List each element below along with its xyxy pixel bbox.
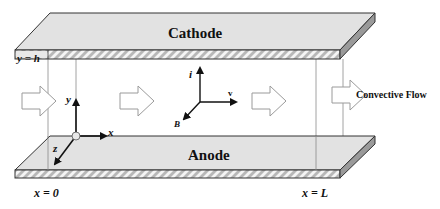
anode-plate: Anode xyxy=(15,136,375,178)
x-axis-label: x xyxy=(107,126,114,138)
magnetic-field-label: B xyxy=(173,119,180,129)
current-label: i xyxy=(189,68,193,80)
z-axis-label: z xyxy=(52,142,58,154)
flow-arrows xyxy=(22,80,366,116)
flow-arrow-icon xyxy=(252,86,286,116)
flow-arrow-icon xyxy=(22,86,56,116)
flow-arrow-icon xyxy=(120,86,154,116)
anode-label: Anode xyxy=(188,147,230,163)
convective-flow-label: Convective Flow xyxy=(356,89,428,100)
cathode-label: Cathode xyxy=(168,25,223,41)
inlet-boundary-label: x = 0 xyxy=(33,186,59,200)
outlet-boundary-label: x = L xyxy=(301,186,328,200)
cathode-hatched-edge xyxy=(15,50,340,59)
velocity-label: v xyxy=(228,88,233,98)
electrochemical-channel-diagram: Anode Cathode y = h Convective Flow y x … xyxy=(0,0,440,209)
cathode-plate: Cathode y = h xyxy=(15,13,375,64)
y-axis-label: y xyxy=(64,93,71,105)
origin-point xyxy=(72,132,80,140)
anode-hatched-edge xyxy=(15,170,340,178)
y-equals-h-label: y = h xyxy=(15,52,40,64)
magnetic-field-vector-icon xyxy=(184,102,200,119)
